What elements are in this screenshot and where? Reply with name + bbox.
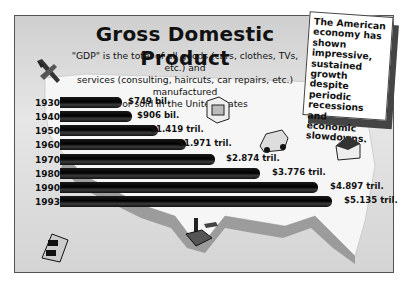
data-label: $3.776 tril. xyxy=(272,167,326,177)
bar-1930 xyxy=(60,97,122,108)
category-label: 1980 xyxy=(34,169,60,179)
bar-1970 xyxy=(60,154,215,165)
data-label: $1.419 tril. xyxy=(150,124,204,134)
category-label: 1970 xyxy=(34,155,60,165)
bar-1990 xyxy=(60,182,318,193)
category-label: 1993 xyxy=(34,197,60,207)
airplane-icon xyxy=(34,56,64,86)
annotation-note: The American economy has shown impressiv… xyxy=(302,11,393,121)
category-label: 1940 xyxy=(34,112,60,122)
category-label: 1960 xyxy=(34,140,60,150)
car-icon xyxy=(258,128,290,154)
bar-1950 xyxy=(60,125,158,136)
data-label: $2.874 tril. xyxy=(226,153,280,163)
data-label: $749 bil. xyxy=(128,96,170,106)
computer-icon xyxy=(203,95,233,125)
bar-1960 xyxy=(60,139,186,150)
category-label: 1990 xyxy=(34,183,60,193)
data-label: $906 bil. xyxy=(137,110,179,120)
house-icon xyxy=(332,132,364,164)
tractor-icon xyxy=(38,226,74,266)
data-label: $1.971 tril. xyxy=(178,138,232,148)
bar-1980 xyxy=(60,168,260,179)
data-label: $4.897 tril. xyxy=(330,181,384,191)
bar-1940 xyxy=(60,111,132,122)
bar-1993 xyxy=(60,196,332,207)
data-label: $5.135 tril. xyxy=(344,195,398,205)
category-label: 1950 xyxy=(34,126,60,136)
subtitle-line: "GDP" is the total of all goods (cars, c… xyxy=(62,50,308,74)
subtitle-line: services (consulting, haircuts, car repa… xyxy=(62,74,308,98)
category-label: 1930 xyxy=(34,98,60,108)
oil-derrick-icon xyxy=(182,218,222,252)
